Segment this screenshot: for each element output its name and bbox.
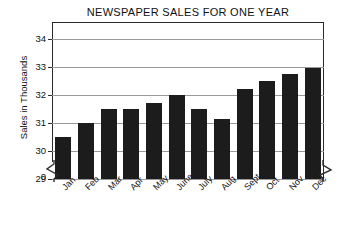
chart-title: NEWSPAPER SALES FOR ONE YEAR	[52, 6, 324, 18]
bars-group	[52, 22, 324, 179]
y-tick-label: 32	[26, 90, 46, 100]
bar-feb	[78, 123, 94, 179]
bar-oct	[259, 81, 275, 179]
bar-apr	[123, 109, 139, 179]
x-axis-break-icon	[316, 160, 334, 182]
y-tick-label-zero: 0	[26, 172, 46, 182]
bar-may	[146, 103, 162, 179]
y-tick-label: 33	[26, 62, 46, 72]
bar-aug	[214, 119, 230, 179]
bar-sept	[237, 89, 253, 179]
bar-june	[169, 95, 185, 179]
bar-july	[191, 109, 207, 179]
bar-chart-figure: NEWSPAPER SALES FOR ONE YEAR Sales in Th…	[0, 0, 348, 227]
bar-mar	[101, 109, 117, 179]
y-tick-label: 34	[26, 34, 46, 44]
y-axis-break-icon	[45, 160, 61, 182]
x-axis-labels: JanFebMarAprMayJuneJulyAugSeptOctNovDec	[52, 181, 324, 227]
y-tick-label: 31	[26, 118, 46, 128]
y-tick-label: 30	[26, 146, 46, 156]
bar-nov	[282, 74, 298, 179]
